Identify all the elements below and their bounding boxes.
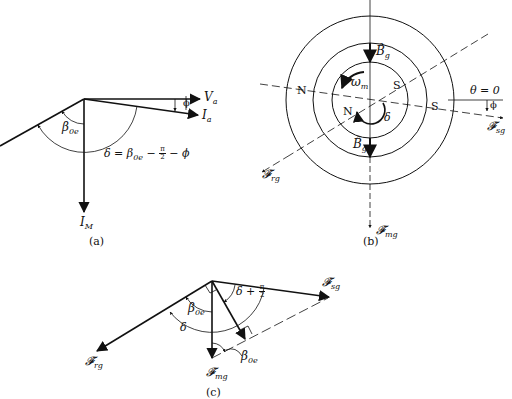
- delta-plus-arc: [224, 285, 235, 302]
- delta-label-c: δ: [180, 322, 187, 333]
- s-inner-label: S: [393, 80, 401, 91]
- beta-lower-label: β0e: [241, 350, 258, 365]
- phasor-diagram-canvas: [0, 0, 512, 399]
- bg-top-label: B̂g: [376, 45, 390, 60]
- n-left-label: N: [297, 85, 307, 96]
- delta-equation: δ = β0e − π2 − ϕ: [104, 146, 190, 162]
- va-label: Va: [204, 91, 217, 106]
- beta-upper-label: β0e: [188, 302, 205, 317]
- fsg-vector: [212, 281, 329, 297]
- ia-phasor: [84, 99, 198, 115]
- panel-c: [97, 281, 329, 358]
- n-inner-label: N: [343, 106, 353, 117]
- caption-a: (a): [89, 235, 104, 248]
- omega-label: ωm: [351, 76, 368, 91]
- frg-label-b: 𝓕̂rg: [262, 168, 280, 183]
- panel-b: [260, 0, 503, 228]
- fsg-label-b: 𝓕̂sg: [487, 120, 505, 135]
- caption-b: (b): [363, 235, 379, 248]
- phi-label-b: ϕ: [490, 100, 497, 110]
- fmg-label-b: 𝓕̂mg: [376, 224, 398, 239]
- delta-label-b: δ: [384, 112, 391, 123]
- frg-label-c: 𝓕̂rg: [85, 355, 103, 370]
- beta-label-a: β0e: [62, 121, 79, 136]
- im-label: IM: [80, 216, 93, 231]
- s-right-label: S: [431, 101, 439, 112]
- bg-bottom-label: B̂g: [353, 138, 367, 153]
- delta-plus-pi-label: δ + π2: [236, 284, 265, 299]
- delta-arc-b: [357, 103, 385, 124]
- beta-arc-lower: [212, 343, 225, 352]
- caption-c: (c): [206, 386, 221, 399]
- ia-label: Ia: [202, 109, 212, 124]
- phi-label-a: ϕ: [183, 98, 190, 108]
- theta-zero-label: θ = 0: [470, 85, 500, 96]
- fsg-label-c: 𝓕̂sg: [322, 276, 340, 291]
- fmg-label-c: 𝓕̂mg: [206, 366, 228, 381]
